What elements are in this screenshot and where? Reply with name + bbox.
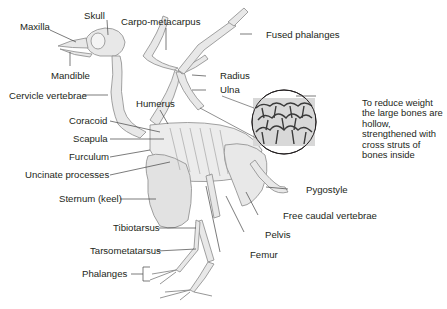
label-tarsometatarsus: Tarsometatarsus: [90, 245, 161, 256]
label-phalanges: Phalanges: [82, 268, 127, 279]
label-pelvis: Pelvis: [265, 229, 291, 240]
label-tibiotarsus: Tibiotarsus: [113, 222, 160, 233]
label-ulna: Ulna: [220, 84, 240, 95]
tarsometatarsus-shape: [190, 262, 214, 292]
label-cervicle-vertebrae: Cervicle vertebrae: [9, 90, 87, 101]
label-femur: Femur: [250, 249, 278, 260]
label-fused-phalanges: Fused phalanges: [266, 29, 340, 40]
label-maxilla: Maxilla: [20, 21, 50, 32]
label-mandible: Mandible: [51, 70, 90, 81]
label-free-caudal-vertebrae: Free caudal vertebrae: [283, 210, 377, 221]
mandible-shape: [60, 49, 92, 57]
label-furculum: Furculum: [69, 151, 109, 162]
label-sternum-keel: Sternum (keel): [59, 193, 122, 204]
neck-shape: [111, 56, 146, 138]
hollow-bone-note: To reduce weight the large bones are hol…: [362, 98, 447, 160]
label-uncinate-processes: Uncinate processes: [25, 169, 109, 180]
label-humerus: Humerus: [136, 98, 175, 109]
forearm-shape: [178, 22, 236, 74]
label-skull: Skull: [84, 10, 105, 21]
radius-ulna-shape: [176, 72, 204, 110]
label-coracoid: Coracoid: [69, 115, 107, 126]
maxilla-shape: [58, 38, 88, 48]
label-scapula: Scapula: [73, 133, 108, 144]
sternum-shape: [146, 154, 192, 228]
bird-skeleton-diagram: Maxilla Skull Carpo-metacarpus Fused pha…: [0, 0, 447, 309]
label-carpo-metacarpus: Carpo-metacarpus: [121, 16, 200, 27]
label-pygostyle: Pygostyle: [306, 184, 348, 195]
label-radius: Radius: [220, 70, 250, 81]
